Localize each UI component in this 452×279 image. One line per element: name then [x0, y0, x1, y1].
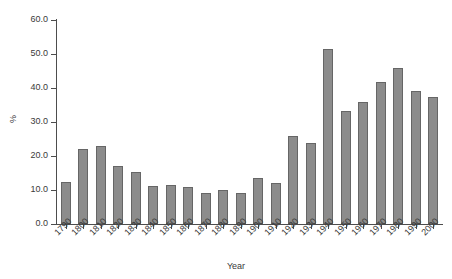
- bar-1990: [411, 91, 421, 224]
- bar-1960: [358, 102, 368, 224]
- x-axis-title-text: Year: [227, 261, 245, 271]
- bar-2000: [428, 97, 438, 224]
- y-axis-tick-label-text: 60.0: [0, 15, 48, 24]
- plot-area: [57, 20, 442, 224]
- y-axis-title: %: [8, 115, 18, 123]
- bar-1920: [288, 136, 298, 224]
- bar-1930: [306, 143, 316, 224]
- y-axis-tick: [51, 54, 56, 55]
- bar-1940: [323, 49, 333, 224]
- y-axis-tick-label: 40.0: [0, 83, 48, 93]
- y-axis-tick-label-text: 40.0: [0, 83, 48, 92]
- y-axis-tick-label: 0.0: [0, 219, 48, 229]
- y-axis-tick: [51, 20, 56, 21]
- y-axis-tick: [51, 156, 56, 157]
- y-axis-tick-label: 50.0: [0, 49, 48, 59]
- y-axis-tick: [51, 190, 56, 191]
- y-axis-tick-label: 10.0: [0, 185, 48, 195]
- y-axis-tick: [51, 224, 56, 225]
- bar-1970: [376, 82, 386, 224]
- bar-chart: 0.010.020.030.040.050.060.0 % 1790180018…: [0, 0, 452, 279]
- y-axis-tick: [51, 88, 56, 89]
- bar-1950: [341, 111, 351, 224]
- y-axis-tick-label-text: 10.0: [0, 185, 48, 194]
- y-axis-tick-label-text: 20.0: [0, 151, 48, 160]
- y-axis-tick-label-text: 0.0: [0, 219, 48, 228]
- y-axis-tick-label: 60.0: [0, 15, 48, 25]
- y-axis-tick-label: 20.0: [0, 151, 48, 161]
- bar-1800: [78, 149, 88, 224]
- bar-1980: [393, 68, 403, 224]
- y-axis-tick-label-text: 50.0: [0, 49, 48, 58]
- y-axis-tick: [51, 122, 56, 123]
- bar-1810: [96, 146, 106, 224]
- x-axis-title: Year: [0, 261, 452, 271]
